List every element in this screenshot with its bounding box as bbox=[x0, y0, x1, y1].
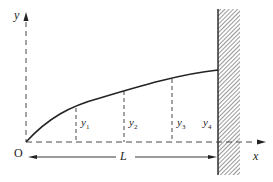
dimension-arrow-right-icon bbox=[208, 155, 217, 159]
deflection-curve bbox=[26, 70, 218, 142]
dimension-arrow-left-icon bbox=[28, 155, 37, 159]
origin-label: O bbox=[14, 146, 23, 161]
beam-deflection-diagram bbox=[0, 0, 273, 182]
y-axis-label: y bbox=[14, 8, 19, 23]
y-axis bbox=[24, 12, 29, 142]
ordinate-subscript: 3 bbox=[182, 123, 186, 131]
wall-support bbox=[218, 9, 240, 175]
length-label: L bbox=[120, 149, 127, 164]
ordinate-lines bbox=[76, 79, 172, 142]
ordinate-label-y3: y3 bbox=[177, 116, 185, 131]
ordinate-subscript: 2 bbox=[134, 123, 138, 131]
ordinate-subscript: 4 bbox=[208, 123, 212, 131]
x-axis-arrow-icon bbox=[257, 140, 266, 145]
y-axis-arrow-icon bbox=[24, 12, 29, 21]
x-axis-label: x bbox=[253, 149, 258, 164]
ordinate-label-y4: y4 bbox=[203, 116, 211, 131]
ordinate-label-y1: y1 bbox=[81, 116, 89, 131]
ordinate-subscript: 1 bbox=[86, 123, 90, 131]
ordinate-label-y2: y2 bbox=[129, 116, 137, 131]
wall-hatching bbox=[218, 9, 240, 175]
